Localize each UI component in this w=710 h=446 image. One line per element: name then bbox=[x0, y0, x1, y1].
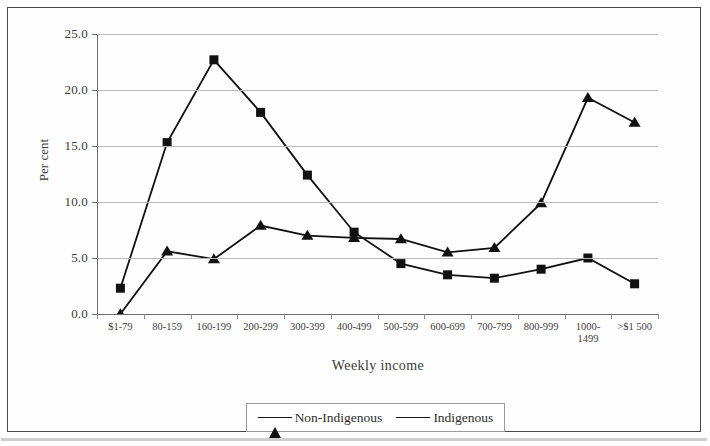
gridline bbox=[97, 146, 658, 147]
data-point-square bbox=[537, 265, 546, 274]
y-tick-label: 10.0 bbox=[38, 194, 88, 210]
legend-label-non-indigenous: Non-Indigenous bbox=[295, 410, 383, 426]
data-point-square bbox=[350, 228, 359, 237]
x-tick-mark bbox=[97, 314, 98, 319]
series-line-non-indigenous bbox=[120, 98, 634, 314]
x-tick-label: 600-699 bbox=[424, 321, 471, 333]
legend-label-indigenous: Indigenous bbox=[433, 410, 493, 426]
line-chart: Per cent 0.05.010.015.020.025.0 $1-7980-… bbox=[0, 0, 710, 446]
gridline bbox=[97, 202, 658, 203]
x-tick-label: 700-799 bbox=[471, 321, 518, 333]
data-point-square bbox=[630, 279, 639, 288]
x-tick-mark bbox=[565, 314, 566, 319]
x-axis-label: Weekly income bbox=[97, 358, 659, 374]
triangle-marker-icon bbox=[258, 412, 292, 424]
y-tick-label: 20.0 bbox=[38, 82, 88, 98]
x-tick-label: >$1 500 bbox=[611, 321, 658, 333]
x-tick-label: 300-399 bbox=[284, 321, 331, 333]
y-tick-label: 15.0 bbox=[38, 138, 88, 154]
x-tick-label: 800-999 bbox=[518, 321, 565, 333]
data-point-square bbox=[396, 259, 405, 268]
x-tick-label: 160-199 bbox=[191, 321, 238, 333]
gridline bbox=[97, 34, 658, 35]
x-tick-mark bbox=[284, 314, 285, 319]
chart-legend: Non-Indigenous Indigenous bbox=[246, 403, 505, 432]
plot-area bbox=[97, 34, 658, 314]
data-point-triangle bbox=[582, 92, 594, 102]
gridline bbox=[97, 90, 658, 91]
data-point-square bbox=[209, 55, 218, 64]
series-line-indigenous bbox=[120, 60, 634, 288]
x-tick-mark bbox=[237, 314, 238, 319]
legend-item-non-indigenous: Non-Indigenous bbox=[258, 410, 383, 426]
data-point-triangle bbox=[161, 246, 173, 256]
x-tick-label: 500-599 bbox=[378, 321, 425, 333]
x-tick-label: 1000- 1499 bbox=[565, 321, 612, 345]
legend-item-indigenous: Indigenous bbox=[396, 410, 493, 426]
gridline bbox=[97, 258, 658, 259]
data-point-square bbox=[303, 171, 312, 180]
data-point-square bbox=[116, 284, 125, 293]
x-tick-mark bbox=[191, 314, 192, 319]
chart-page: Per cent 0.05.010.015.020.025.0 $1-7980-… bbox=[0, 0, 710, 446]
square-marker-icon bbox=[396, 412, 430, 424]
data-point-square bbox=[490, 274, 499, 283]
x-tick-mark bbox=[424, 314, 425, 319]
x-tick-mark bbox=[144, 314, 145, 319]
x-tick-label: 80-159 bbox=[144, 321, 191, 333]
series-layer bbox=[97, 34, 658, 314]
data-point-square bbox=[256, 108, 265, 117]
data-point-square bbox=[443, 270, 452, 279]
y-tick-label: 5.0 bbox=[38, 250, 88, 266]
x-tick-mark bbox=[378, 314, 379, 319]
x-tick-mark bbox=[611, 314, 612, 319]
y-tick-label: 0.0 bbox=[38, 306, 88, 322]
x-tick-label: 200-299 bbox=[237, 321, 284, 333]
x-tick-label: 400-499 bbox=[331, 321, 378, 333]
x-tick-mark bbox=[471, 314, 472, 319]
x-tick-mark bbox=[331, 314, 332, 319]
x-tick-mark bbox=[658, 314, 659, 319]
data-point-triangle bbox=[629, 117, 641, 127]
data-point-triangle bbox=[255, 220, 267, 230]
y-tick-label: 25.0 bbox=[38, 26, 88, 42]
x-tick-label: $1-79 bbox=[97, 321, 144, 333]
x-tick-mark bbox=[518, 314, 519, 319]
